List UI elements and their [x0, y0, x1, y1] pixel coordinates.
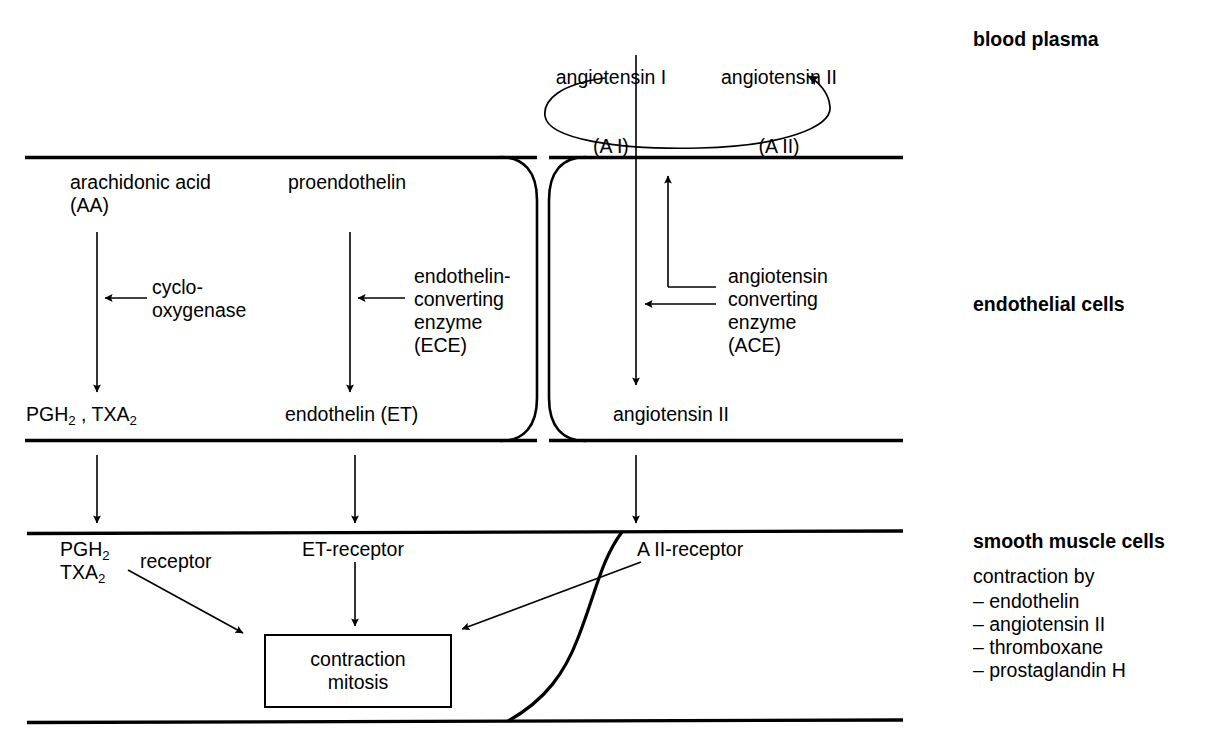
- label-cyclooxygenase-line2: oxygenase: [152, 299, 246, 322]
- side-label-blood-plasma: blood plasma: [973, 28, 1099, 51]
- angiotensin-ii-abbrev: (A II): [697, 135, 861, 158]
- label-angiotensin-i: angiotensin I (A I): [531, 20, 691, 204]
- mediator-transfer-arrows: [97, 455, 636, 523]
- angiotensin-ii-name: angiotensin II: [697, 66, 861, 89]
- label-cyclooxygenase-line1: cyclo-: [152, 276, 203, 299]
- label-endothelin: endothelin (ET): [285, 403, 418, 426]
- side-label-endothelial-cells: endothelial cells: [973, 293, 1125, 316]
- proendothelin-pathway-arrow: [350, 232, 405, 392]
- label-pgh2-txa2-receptor-word: receptor: [140, 550, 212, 573]
- effect-box: contraction mitosis: [265, 635, 451, 707]
- label-angiotensin-ii-plasma: angiotensin II (A II): [697, 20, 861, 204]
- agonist-item: – angiotensin II: [973, 613, 1105, 636]
- label-txa2-receptor-line2: TXA2: [60, 561, 105, 590]
- agonist-item: – endothelin: [973, 590, 1079, 613]
- label-aii-receptor: A II-receptor: [637, 538, 743, 561]
- label-ace-line3: enzyme: [728, 311, 796, 334]
- side-label-contraction-by: contraction by: [973, 565, 1094, 588]
- angiotensin-i-abbrev: (A I): [531, 135, 691, 158]
- label-pgh2-txa2-endothelium: PGH2 , TXA2: [26, 403, 137, 432]
- agonist-item: – thromboxane: [973, 636, 1103, 659]
- angiotensin-i-name: angiotensin I: [531, 66, 691, 89]
- label-ace-line4: (ACE): [728, 334, 781, 357]
- label-ece-line2: converting: [414, 288, 504, 311]
- diagram-canvas: angiotensin I (A I) angiotensin II (A II…: [0, 0, 1209, 749]
- effect-box-line2: mitosis: [328, 671, 389, 694]
- smooth-muscle-cell-divider: [508, 532, 622, 721]
- arachidonic-acid-pathway-arrow: [97, 232, 147, 392]
- label-arachidonic-acid-abbrev: (AA): [70, 194, 109, 217]
- label-ece-line4: (ECE): [414, 334, 467, 357]
- effect-box-line1: contraction: [310, 648, 405, 671]
- label-ace-line1: angiotensin: [728, 265, 828, 288]
- agonist-item: – prostaglandin H: [973, 659, 1126, 682]
- label-et-receptor: ET-receptor: [302, 538, 404, 561]
- label-arachidonic-acid: arachidonic acid: [70, 171, 211, 194]
- label-proendothelin: proendothelin: [288, 171, 406, 194]
- label-ece-line1: endothelin-: [414, 265, 511, 288]
- side-label-smooth-muscle-cells: smooth muscle cells: [973, 530, 1165, 553]
- label-ece-line3: enzyme: [414, 311, 482, 334]
- label-ace-line2: converting: [728, 288, 818, 311]
- label-angiotensin-ii-endothelium: angiotensin II: [613, 403, 729, 426]
